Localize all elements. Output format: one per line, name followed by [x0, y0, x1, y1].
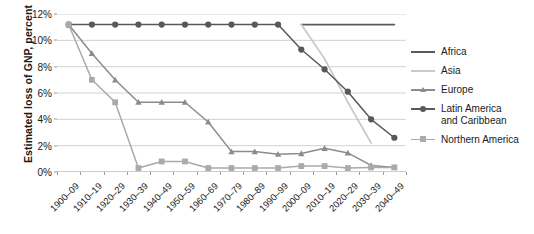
legend-label-line1: Europe: [441, 84, 473, 95]
legend-item-asia[interactable]: Asia: [411, 65, 519, 77]
x-tick: [383, 172, 384, 175]
legend-swatch: [411, 103, 435, 114]
legend-swatch: [411, 84, 435, 95]
data-point: [229, 165, 235, 171]
data-point: [66, 22, 72, 28]
series-line: [301, 25, 371, 144]
chart-legend: AfricaAsiaEuropeLatin Americaand Caribbe…: [411, 46, 519, 153]
x-tick: [406, 172, 407, 175]
legend-label-line1: Latin America: [441, 103, 502, 114]
data-point: [275, 21, 281, 27]
y-tick-label: 12%: [32, 9, 52, 20]
y-tick: [54, 66, 57, 67]
legend-marker-triangle-icon: [420, 87, 426, 92]
x-tick: [104, 172, 105, 175]
legend-marker-square-icon: [420, 136, 426, 142]
data-point: [135, 21, 141, 27]
y-tick-label: 10%: [32, 35, 52, 46]
data-point: [252, 21, 258, 27]
y-tick-label: 0%: [38, 167, 52, 178]
data-point: [322, 163, 328, 169]
x-tick: [243, 172, 244, 175]
y-tick: [54, 40, 57, 41]
legend-item-africa[interactable]: Africa: [411, 46, 519, 58]
data-point: [205, 21, 211, 27]
data-point: [298, 46, 304, 52]
legend-swatch: [411, 65, 435, 76]
chart-root: Estimated loss of GNP, percent 0%2%4%6%8…: [0, 0, 534, 234]
data-point: [298, 163, 304, 169]
y-tick: [54, 14, 57, 15]
y-tick: [54, 119, 57, 120]
data-point: [252, 165, 258, 171]
y-tick-label: 4%: [38, 114, 52, 125]
y-tick-label: 8%: [38, 61, 52, 72]
y-tick-label: 6%: [38, 88, 52, 99]
data-point: [368, 116, 374, 122]
data-point: [275, 165, 281, 171]
data-point: [89, 77, 95, 83]
x-tick: [173, 172, 174, 175]
data-point: [159, 21, 165, 27]
y-tick: [54, 93, 57, 94]
data-point: [182, 159, 188, 165]
data-point: [368, 164, 374, 170]
legend-item-northern-america[interactable]: Northern America: [411, 134, 519, 146]
legend-label: Europe: [441, 84, 473, 96]
y-tick: [54, 145, 57, 146]
legend-label-line1: Northern America: [441, 134, 519, 145]
data-point: [159, 159, 165, 165]
data-point: [391, 164, 397, 170]
chart-svg: [57, 14, 406, 172]
x-tick: [290, 172, 291, 175]
plot-area: 0%2%4%6%8%10%12%1900–091910–191920–29193…: [57, 14, 406, 172]
legend-label-line1: Africa: [441, 46, 467, 57]
legend-item-latin-america[interactable]: Latin Americaand Caribbean: [411, 103, 519, 126]
x-tick: [127, 172, 128, 175]
x-tick: [80, 172, 81, 175]
legend-label: Asia: [441, 65, 460, 77]
legend-label-line1: Asia: [441, 65, 460, 76]
y-axis-title: Estimated loss of GNP, percent: [22, 0, 34, 174]
x-tick: [197, 172, 198, 175]
legend-marker-circle-icon: [420, 106, 426, 112]
x-tick: [266, 172, 267, 175]
data-point: [228, 21, 234, 27]
x-tick: [336, 172, 337, 175]
series-europe: [65, 21, 397, 170]
data-point: [205, 165, 211, 171]
legend-label: Latin Americaand Caribbean: [441, 103, 507, 126]
x-tick: [57, 172, 58, 175]
legend-swatch: [411, 134, 435, 145]
data-point: [112, 99, 118, 105]
data-point: [89, 21, 95, 27]
data-point: [321, 66, 327, 72]
x-tick: [359, 172, 360, 175]
y-tick-label: 2%: [38, 140, 52, 151]
legend-label: Northern America: [441, 134, 519, 146]
x-tick: [150, 172, 151, 175]
series-asia: [301, 25, 371, 144]
x-tick: [313, 172, 314, 175]
legend-label-line2: and Caribbean: [441, 115, 507, 127]
data-point: [391, 135, 397, 141]
data-point: [345, 89, 351, 95]
legend-swatch: [411, 46, 435, 57]
legend-label: Africa: [441, 46, 467, 58]
data-point: [345, 165, 351, 171]
legend-item-europe[interactable]: Europe: [411, 84, 519, 96]
x-tick: [220, 172, 221, 175]
data-point: [182, 21, 188, 27]
data-point: [112, 21, 118, 27]
data-point: [136, 165, 142, 171]
